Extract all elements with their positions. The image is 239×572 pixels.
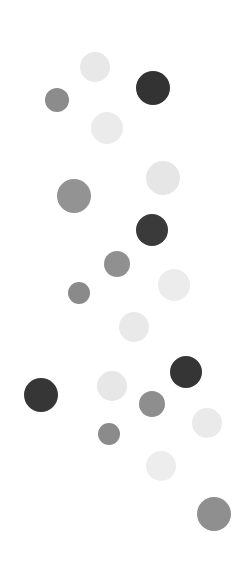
scatter-dot — [146, 161, 180, 195]
scatter-plot-canvas — [0, 0, 239, 572]
scatter-dot — [139, 391, 165, 417]
scatter-dot — [158, 269, 190, 301]
scatter-dot — [197, 497, 231, 531]
scatter-dot — [192, 408, 222, 438]
dot-scatter-svg — [0, 0, 239, 572]
scatter-dot — [80, 52, 110, 82]
scatter-dot — [136, 214, 168, 246]
scatter-dot — [68, 282, 90, 304]
scatter-dot — [45, 88, 69, 112]
scatter-dot — [170, 356, 202, 388]
scatter-dot — [119, 312, 149, 342]
scatter-dot — [146, 451, 176, 481]
scatter-dot — [97, 371, 127, 401]
scatter-dot — [104, 251, 130, 277]
scatter-dot — [91, 112, 123, 144]
scatter-dot — [98, 423, 120, 445]
scatter-dot — [24, 378, 58, 412]
scatter-dot — [57, 179, 91, 213]
plot-background — [0, 0, 239, 572]
scatter-dot — [136, 71, 170, 105]
